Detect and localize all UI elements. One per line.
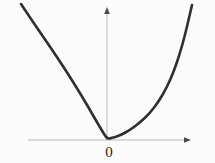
function-graph: 0 (0, 0, 215, 163)
graph-svg: 0 (0, 0, 215, 163)
origin-label: 0 (105, 144, 113, 160)
